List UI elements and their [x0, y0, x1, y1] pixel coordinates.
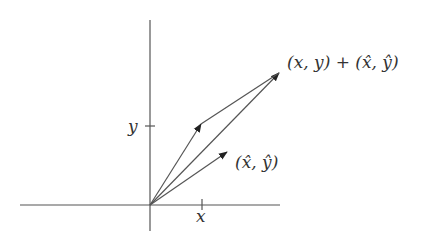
x-axis-label: x — [196, 206, 206, 226]
sum-label: (x, y) + (x̂, ŷ) — [287, 52, 399, 72]
vector-hat — [150, 152, 227, 205]
vector-xy — [150, 124, 201, 205]
vector-sum — [150, 73, 279, 205]
diagram-canvas: y x (x, y) + (x̂, ŷ) (x̂, ŷ) — [0, 0, 444, 246]
vector-hat-translated — [201, 73, 279, 124]
y-axis-label: y — [127, 116, 138, 136]
hat-vector-label: (x̂, ŷ) — [235, 152, 278, 172]
vector-addition-diagram: y x (x, y) + (x̂, ŷ) (x̂, ŷ) — [0, 0, 444, 246]
